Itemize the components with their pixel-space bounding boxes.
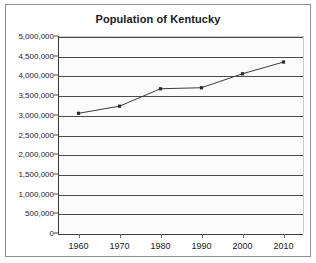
x-axis-tick-label: 1960 — [68, 241, 88, 251]
y-axis-tick-label: 1,000,000 — [18, 189, 54, 198]
series-line — [79, 62, 284, 113]
y-axis-tick-label: 5,000,000 — [18, 32, 54, 41]
y-axis-tick-label: 3,000,000 — [18, 110, 54, 119]
y-axis-tick-label: 1,500,000 — [18, 169, 54, 178]
y-axis-tick-label: 4,000,000 — [18, 71, 54, 80]
x-axis-tick — [243, 234, 244, 238]
data-point-marker — [282, 60, 285, 63]
data-point-marker — [200, 86, 203, 89]
x-axis-tick-label: 2000 — [232, 241, 252, 251]
y-axis-tick-label: 4,500,000 — [18, 51, 54, 60]
chart-title: Population of Kentucky — [6, 13, 310, 25]
x-axis-ticks — [58, 234, 304, 239]
y-axis-tick-label: 500,000 — [25, 209, 54, 218]
y-axis-tick-label: 3,500,000 — [18, 91, 54, 100]
y-axis-labels: 5,000,0004,500,0004,000,0003,500,0003,00… — [6, 36, 54, 233]
x-axis-tick-label: 1990 — [191, 241, 211, 251]
data-point-marker — [241, 72, 244, 75]
x-axis-tick — [120, 234, 121, 238]
y-axis-tick-label: 2,000,000 — [18, 150, 54, 159]
data-point-marker — [77, 112, 80, 115]
chart-frame: Population of Kentucky 5,000,0004,500,00… — [5, 4, 311, 257]
x-axis-tick-label: 1980 — [150, 241, 170, 251]
x-axis-labels: 196019701980199020002010 — [58, 241, 304, 255]
data-point-marker — [118, 105, 121, 108]
x-axis-tick — [202, 234, 203, 238]
x-axis-tick-label: 2010 — [273, 241, 293, 251]
series-population-of-kentucky — [58, 36, 304, 233]
x-axis-tick-label: 1970 — [109, 241, 129, 251]
x-axis-tick — [79, 234, 80, 238]
y-axis-tick-label: 2,500,000 — [18, 130, 54, 139]
x-axis-tick — [284, 234, 285, 238]
x-axis-tick — [161, 234, 162, 238]
data-point-marker — [159, 87, 162, 90]
